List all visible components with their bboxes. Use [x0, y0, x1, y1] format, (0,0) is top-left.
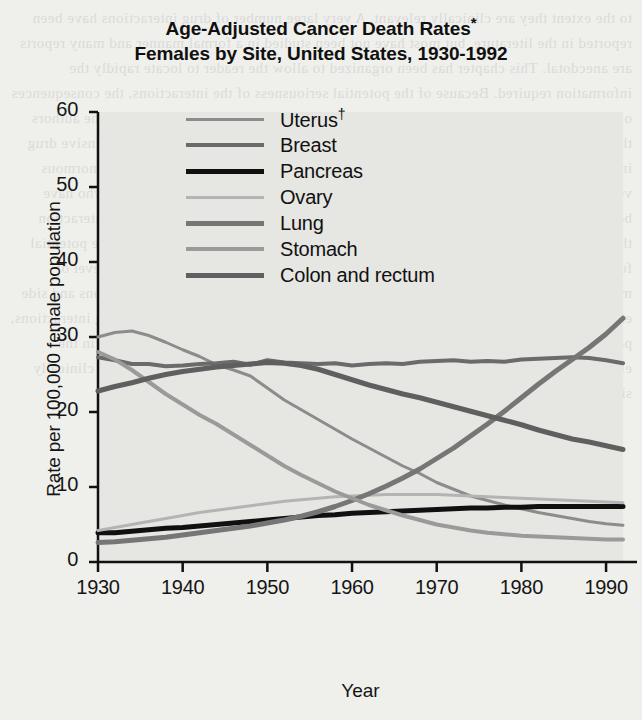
- y-tick-label: 10: [32, 473, 78, 496]
- y-tick-label: 0: [32, 548, 78, 571]
- x-axis-title: Year: [98, 680, 623, 702]
- legend-item-colon-and-rectum[interactable]: Colon and rectum: [186, 262, 435, 288]
- y-tick-label: 60: [32, 98, 78, 121]
- legend-item-breast[interactable]: Breast: [186, 132, 435, 158]
- y-tick-label: 20: [32, 398, 78, 421]
- chart-legend: Uterus†BreastPancreasOvaryLungStomachCol…: [186, 106, 435, 288]
- legend-label: Lung: [280, 212, 324, 235]
- y-tick-label: 50: [32, 173, 78, 196]
- legend-item-ovary[interactable]: Ovary: [186, 184, 435, 210]
- x-tick-label: 1930: [53, 576, 143, 599]
- y-tick-label: 30: [32, 323, 78, 346]
- legend-swatch-icon: [186, 196, 264, 199]
- legend-label: Pancreas: [280, 160, 363, 183]
- legend-label: Uterus†: [280, 106, 345, 132]
- x-tick-label: 1990: [561, 576, 642, 599]
- legend-label: Stomach: [280, 238, 358, 261]
- legend-swatch-icon: [186, 169, 264, 174]
- x-tick-label: 1960: [307, 576, 397, 599]
- legend-label: Colon and rectum: [280, 264, 435, 287]
- legend-item-lung[interactable]: Lung: [186, 210, 435, 236]
- legend-swatch-icon: [186, 118, 264, 121]
- x-tick-label: 1940: [138, 576, 228, 599]
- y-tick-label: 40: [32, 248, 78, 271]
- y-axis-title: Rate per 100,000 female population: [43, 199, 65, 499]
- legend-swatch-icon: [186, 221, 264, 226]
- legend-swatch-icon: [186, 247, 264, 251]
- legend-swatch-icon: [186, 143, 264, 147]
- legend-item-stomach[interactable]: Stomach: [186, 236, 435, 262]
- legend-label: Ovary: [280, 186, 332, 209]
- legend-swatch-icon: [186, 273, 264, 278]
- x-tick-label: 1950: [222, 576, 312, 599]
- x-tick-label: 1970: [392, 576, 482, 599]
- legend-item-pancreas[interactable]: Pancreas: [186, 158, 435, 184]
- x-tick-label: 1980: [476, 576, 566, 599]
- legend-label: Breast: [280, 134, 337, 157]
- legend-item-uterus[interactable]: Uterus†: [186, 106, 435, 132]
- chart-page: Age-Adjusted Cancer Death Rates* Females…: [0, 0, 642, 720]
- legend-dagger-marker: †: [338, 106, 346, 122]
